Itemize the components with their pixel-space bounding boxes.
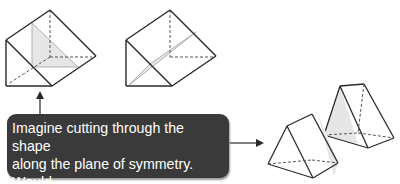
symmetry-plane-shading xyxy=(32,23,78,67)
prism-figure-2 xyxy=(126,10,216,86)
right-arrow-icon xyxy=(229,139,264,147)
callout-box: Imagine cutting through the shape along … xyxy=(7,114,229,178)
up-arrow-icon xyxy=(36,91,44,114)
callout-line-1: Imagine cutting through the shape xyxy=(12,119,225,155)
diagonal-plane-shading xyxy=(128,32,196,86)
prism-figure-1 xyxy=(6,10,96,86)
half-prism-back xyxy=(324,84,394,148)
callout-line-2: along the plane of symmetry. Would xyxy=(12,155,225,184)
callout-text: Imagine cutting through the shape along … xyxy=(12,119,225,184)
